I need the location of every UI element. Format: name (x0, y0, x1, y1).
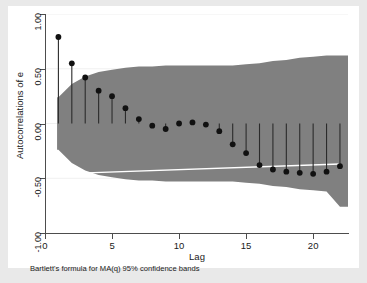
data-marker (109, 93, 115, 99)
x-tick-label: 20 (298, 240, 328, 251)
data-marker (337, 163, 343, 169)
y-tick-label: 0.00 (33, 123, 43, 141)
x-tick-label: 10 (164, 240, 194, 251)
plot-svg (45, 14, 348, 233)
data-marker (149, 123, 155, 129)
x-axis-line (45, 233, 349, 234)
x-tick-label: 0 (30, 240, 60, 251)
data-marker (230, 141, 236, 147)
plot-area (45, 14, 348, 233)
x-tick-mark (246, 234, 247, 239)
y-tick-label-wrap: 1.00 (12, 8, 38, 20)
x-tick-mark (112, 234, 113, 239)
x-axis-title: Lag (45, 251, 349, 262)
data-marker (82, 75, 88, 81)
data-marker (176, 121, 182, 127)
chart-footnote: Bartlett's formula for MA(q) 95% confide… (30, 264, 199, 273)
x-tick-label: 15 (231, 240, 261, 251)
y-tick-label: 1.00 (33, 13, 43, 31)
data-marker (297, 170, 303, 176)
acf-chart: 1.000.500.00-0.50-1.00 05101520 Autocorr… (0, 0, 367, 283)
data-marker (257, 162, 263, 168)
data-marker (310, 171, 316, 177)
data-marker (216, 128, 222, 134)
x-tick-mark (179, 234, 180, 239)
data-marker (69, 60, 75, 66)
data-marker (190, 120, 196, 126)
y-tick-label: 0.50 (33, 68, 43, 86)
confidence-band-area (57, 56, 348, 207)
data-marker (324, 169, 330, 175)
x-tick-label: 5 (97, 240, 127, 251)
data-marker (270, 167, 276, 173)
x-tick-mark (45, 234, 46, 239)
data-marker (283, 169, 289, 175)
y-axis-title: Autocorrelations of e (14, 36, 25, 196)
y-axis-line (45, 14, 46, 234)
data-marker (203, 122, 209, 128)
data-marker (136, 116, 142, 122)
data-marker (163, 126, 169, 132)
data-marker (96, 88, 102, 94)
y-tick-label: -0.50 (33, 177, 43, 198)
confidence-band (57, 56, 348, 207)
data-marker (243, 150, 249, 156)
data-marker (123, 105, 129, 111)
y-tick-label-wrap: -1.00 (12, 227, 38, 239)
data-marker (56, 34, 62, 40)
x-tick-mark (313, 234, 314, 239)
